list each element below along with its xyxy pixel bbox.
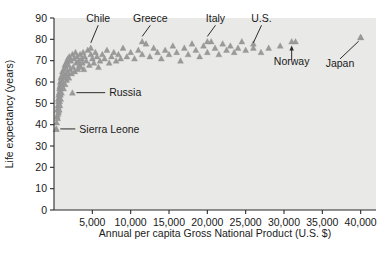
y-axis-title: Life expectancy (years) [3,60,15,169]
y-tick-label: 30 [35,140,47,152]
annotation-label-sierra-leone: Sierra Leone [79,123,139,135]
life-expectancy-vs-gnp-chart: ChileGreeceItalyU.S.NorwayJapanRussiaSie… [0,0,384,257]
y-tick-label: 20 [35,161,47,173]
annotation-label-u-s: U.S. [251,12,271,24]
scatter-plot-figure: ChileGreeceItalyU.S.NorwayJapanRussiaSie… [0,0,384,257]
y-tick-label: 60 [35,76,47,88]
y-tick-label: 90 [35,12,47,24]
y-tick-label: 0 [41,204,47,216]
x-axis-title: Annual per capita Gross National Product… [99,227,331,239]
y-tick-label: 70 [35,54,47,66]
annotation-label-norway: Norway [274,55,310,67]
annotation-label-greece: Greece [133,12,168,24]
y-tick-label: 40 [35,118,47,130]
annotation-label-japan: Japan [326,57,355,69]
annotation-label-italy: Italy [206,12,226,24]
x-tick-label: 40,000 [345,216,377,228]
y-tick-label: 80 [35,33,47,45]
annotation-label-russia: Russia [109,86,141,98]
y-tick-label: 50 [35,97,47,109]
y-tick-label: 10 [35,182,47,194]
annotation-label-chile: Chile [86,12,110,24]
